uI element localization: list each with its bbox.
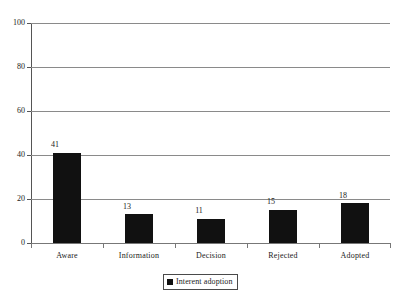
x-axis-category-label-decision: Decision [175, 251, 247, 260]
chart-legend[interactable]: Interent adoption [163, 274, 238, 290]
x-axis-tick-mark [31, 244, 32, 248]
bar-value-aware: 41 [41, 141, 69, 149]
gridline-100 [31, 23, 390, 24]
x-axis-tick-mark [175, 244, 176, 248]
y-axis-tick-label: 40 [0, 151, 25, 159]
y-axis-tick-label: 80 [0, 63, 25, 71]
y-axis-tick-label: 20 [0, 195, 25, 203]
bar-chart: 100 80 60 40 20 0 41 13 11 15 18 Aware I… [0, 0, 407, 304]
y-axis-tick-label: 60 [0, 107, 25, 115]
bar-information[interactable] [125, 214, 153, 243]
x-axis-category-label-information: Information [103, 251, 175, 260]
legend-label: Interent adoption [176, 277, 233, 286]
x-axis-tick-mark [103, 244, 104, 248]
bar-decision[interactable] [197, 219, 225, 243]
gridline-80 [31, 67, 390, 68]
bar-adopted[interactable] [341, 203, 369, 243]
x-axis-category-label-aware: Aware [31, 251, 103, 260]
bar-aware[interactable] [53, 153, 81, 243]
bar-value-decision: 11 [185, 207, 213, 215]
x-axis-category-label-rejected: Rejected [247, 251, 319, 260]
gridline-60 [31, 111, 390, 112]
gridline-40 [31, 155, 390, 156]
x-axis-tick-mark [319, 244, 320, 248]
y-axis-tick-label: 100 [0, 19, 25, 27]
y-axis-tick-label: 0 [0, 239, 25, 247]
x-axis-tick-mark [390, 244, 391, 248]
legend-swatch-icon [167, 279, 173, 285]
x-axis-tick-mark [247, 244, 248, 248]
bar-value-rejected: 15 [257, 198, 285, 206]
x-axis-line [31, 243, 391, 244]
bar-value-information: 13 [113, 203, 141, 211]
x-axis-category-label-adopted: Adopted [319, 251, 391, 260]
bar-rejected[interactable] [269, 210, 297, 243]
bar-value-adopted: 18 [329, 192, 357, 200]
